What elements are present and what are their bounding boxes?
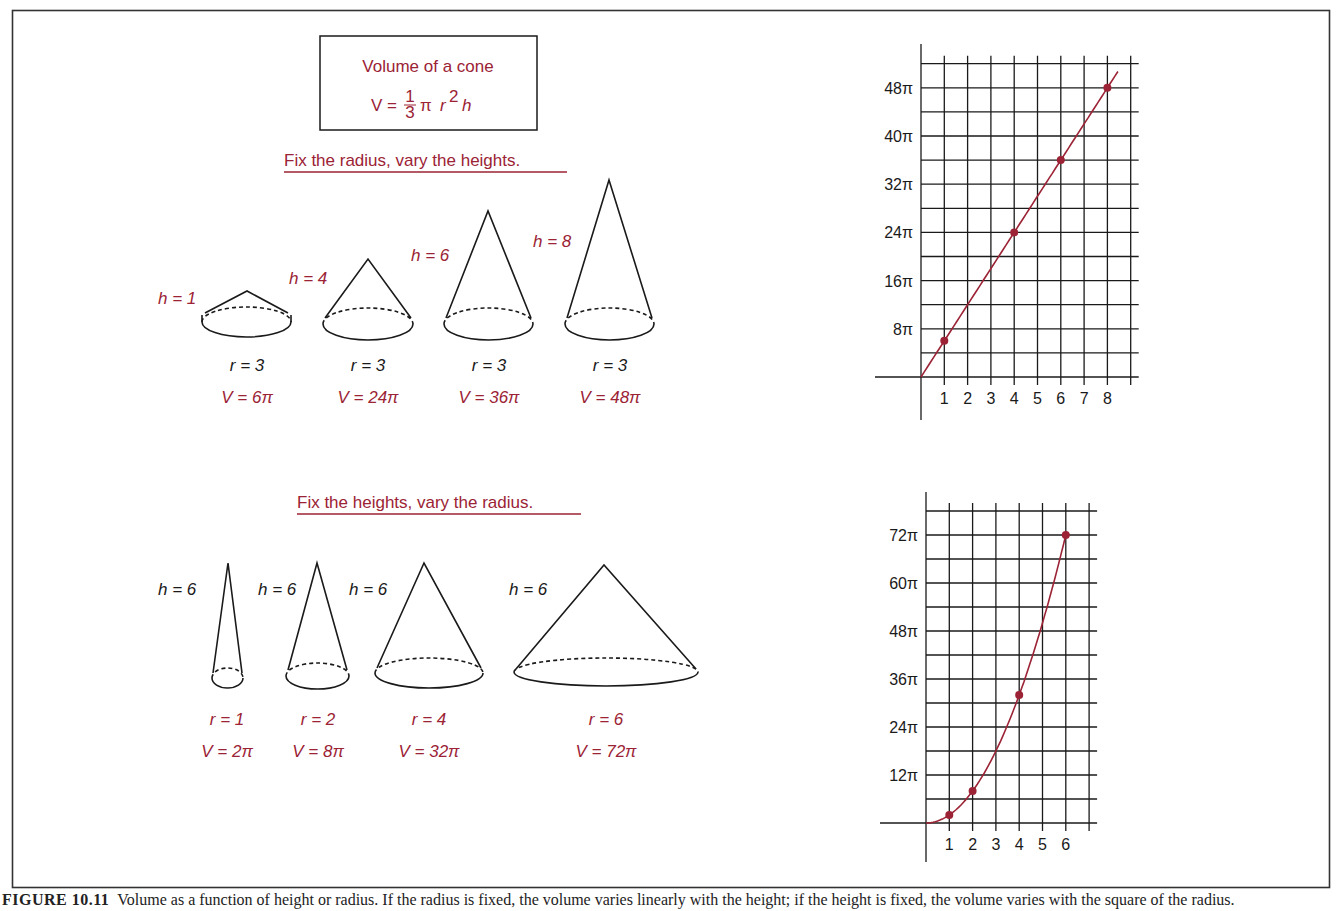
y-tick-label: 72π xyxy=(889,527,918,544)
section-top-heading: Fix the radius, vary the heights. xyxy=(284,151,520,170)
x-tick-label: 3 xyxy=(986,390,995,407)
x-tick-label: 1 xyxy=(940,390,949,407)
x-tick-label: 7 xyxy=(1080,390,1089,407)
cone-h-label: h = 4 xyxy=(289,269,327,288)
cone-h-label: h = 6 xyxy=(349,580,388,599)
x-tick-label: 4 xyxy=(1015,836,1024,853)
x-tick-label: 5 xyxy=(1038,836,1047,853)
y-tick-label: 24π xyxy=(884,224,913,241)
top-row-labels: h = 1 h = 4 h = 6 h = 8 r = 3 r = 3 r = … xyxy=(158,232,641,407)
data-point xyxy=(1062,531,1070,539)
x-tick-label: 5 xyxy=(1033,390,1042,407)
cone-h-label: h = 8 xyxy=(533,232,572,251)
chart-volume-vs-height: 123456788π16π24π32π40π48π xyxy=(875,44,1139,420)
y-tick-label: 48π xyxy=(884,80,913,97)
figure-caption: FIGURE 10.11 Volume as a function of hei… xyxy=(0,891,1337,911)
cone-r-label: r = 3 xyxy=(593,356,628,375)
x-tick-label: 2 xyxy=(963,390,972,407)
y-tick-label: 16π xyxy=(884,273,913,290)
y-tick-label: 40π xyxy=(884,128,913,145)
data-point xyxy=(940,337,948,345)
chart-volume-vs-radius: 12345612π24π36π48π60π72π xyxy=(880,492,1097,862)
formula-box: Volume of a cone V = 1 3 π r 2 h xyxy=(320,36,537,130)
x-tick-label: 2 xyxy=(968,836,977,853)
figure-number: FIGURE 10.11 xyxy=(2,891,109,908)
y-tick-label: 8π xyxy=(893,321,913,338)
cone-r-label: r = 3 xyxy=(351,356,386,375)
y-tick-label: 12π xyxy=(889,767,918,784)
cone-h-label: h = 6 xyxy=(258,580,297,599)
cone-h4 xyxy=(323,259,413,340)
y-tick-label: 48π xyxy=(889,623,918,640)
data-point xyxy=(945,811,953,819)
formula-pi: π xyxy=(420,96,432,115)
cone-volume-label: V = 32π xyxy=(398,742,460,761)
cone-volume-label: V = 6π xyxy=(221,388,273,407)
y-tick-label: 60π xyxy=(889,575,918,592)
x-tick-label: 6 xyxy=(1061,836,1070,853)
formula-frac-den: 3 xyxy=(405,103,414,122)
cone-h8 xyxy=(565,180,654,340)
series-line xyxy=(921,72,1118,378)
cone-r1 xyxy=(212,563,243,688)
y-tick-label: 32π xyxy=(884,176,913,193)
cone-volume-label: V = 48π xyxy=(579,388,641,407)
cone-h-label: h = 6 xyxy=(411,246,450,265)
x-tick-label: 6 xyxy=(1056,390,1065,407)
data-point xyxy=(1057,156,1065,164)
section-bottom-heading: Fix the heights, vary the radius. xyxy=(297,493,533,512)
x-tick-label: 4 xyxy=(1010,390,1019,407)
cone-h-label: h = 1 xyxy=(158,289,196,308)
cone-r-label: r = 4 xyxy=(412,710,447,729)
x-tick-label: 8 xyxy=(1103,390,1112,407)
cone-volume-label: V = 2π xyxy=(201,742,253,761)
cone-r-label: r = 3 xyxy=(472,356,507,375)
cone-volume-label: V = 72π xyxy=(575,742,637,761)
cone-h6 xyxy=(444,211,533,340)
cone-h-label: h = 6 xyxy=(158,580,197,599)
formula-lhs: V = xyxy=(371,96,397,115)
cone-volume-label: V = 24π xyxy=(337,388,399,407)
cone-r-label: r = 2 xyxy=(301,710,336,729)
cone-r-label: r = 3 xyxy=(230,356,265,375)
cone-r-label: r = 6 xyxy=(589,710,624,729)
formula-title: Volume of a cone xyxy=(362,57,493,76)
cone-volume-label: V = 8π xyxy=(292,742,344,761)
x-tick-label: 1 xyxy=(945,836,954,853)
x-tick-label: 3 xyxy=(991,836,1000,853)
y-tick-label: 24π xyxy=(889,719,918,736)
data-point xyxy=(969,787,977,795)
bottom-row-labels: h = 6 h = 6 h = 6 h = 6 r = 1 r = 2 r = … xyxy=(158,580,637,761)
cone-volume-label: V = 36π xyxy=(458,388,520,407)
cone-r-label: r = 1 xyxy=(210,710,245,729)
formula-r: r xyxy=(440,96,447,115)
cone-r4 xyxy=(375,563,483,688)
cone-h1 xyxy=(202,291,291,337)
formula-exponent: 2 xyxy=(449,87,458,106)
data-point xyxy=(1015,691,1023,699)
caption-text: Volume as a function of height or radius… xyxy=(117,891,1234,908)
data-point xyxy=(1103,84,1111,92)
formula-h: h xyxy=(462,96,471,115)
data-point xyxy=(1010,228,1018,236)
cone-h-label: h = 6 xyxy=(509,580,548,599)
y-tick-label: 36π xyxy=(889,671,918,688)
